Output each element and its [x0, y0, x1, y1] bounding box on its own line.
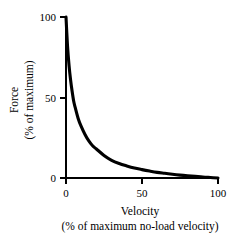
force-velocity-chart: 100 50 0 0 50 100 Velocity (% of maximum…: [0, 0, 248, 239]
chart-svg: 100 50 0 0 50 100 Velocity (% of maximum…: [0, 0, 248, 239]
x-axis-subtitle: (% of maximum no-load velocity): [61, 220, 218, 233]
y-tick-label-50: 50: [45, 92, 57, 104]
x-tick-label-100: 100: [210, 187, 227, 199]
y-tick-label-0: 0: [51, 172, 57, 184]
y-axis-title: Force: [8, 87, 20, 113]
x-tick-label-50: 50: [137, 187, 149, 199]
x-axis-title: Velocity: [121, 205, 160, 218]
y-tick-label-100: 100: [40, 11, 57, 23]
x-tick-label-0: 0: [63, 187, 69, 199]
y-axis-subtitle: (% of maximum): [23, 60, 36, 139]
chart-background: [0, 0, 248, 239]
